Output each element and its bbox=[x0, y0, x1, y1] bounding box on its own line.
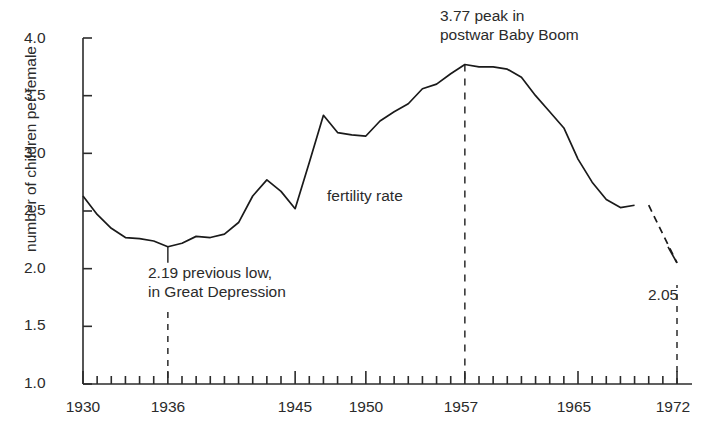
x-tick-marks bbox=[83, 371, 677, 384]
x-tick-label-1945: 1945 bbox=[267, 398, 323, 416]
x-tick-label-1950: 1950 bbox=[338, 398, 394, 416]
y-tick-label-1-5: 1.5 bbox=[24, 316, 46, 334]
x-tick-label-1957: 1957 bbox=[433, 398, 489, 416]
y-tick-marks bbox=[83, 38, 92, 384]
series-label: fertility rate bbox=[327, 186, 403, 205]
y-tick-label-2-0: 2.0 bbox=[24, 259, 46, 277]
peak-annotation-line1: 3.77 peak in bbox=[440, 7, 524, 24]
x-tick-label-1930: 1930 bbox=[55, 398, 111, 416]
y-tick-label-1-0: 1.0 bbox=[24, 374, 46, 392]
x-tick-label-1972: 1972 bbox=[645, 398, 701, 416]
y-tick-label-3-0: 3.0 bbox=[24, 144, 46, 162]
end-value-arrow-icon bbox=[668, 247, 677, 263]
y-tick-label-4-0: 4.0 bbox=[24, 29, 46, 47]
end-value-label: 2.05 bbox=[648, 285, 678, 304]
plot-canvas bbox=[0, 0, 706, 440]
fertility-rate-line bbox=[83, 65, 635, 247]
peak-annotation-line2: postwar Baby Boom bbox=[440, 26, 579, 43]
low-annotation: 2.19 previous low,in Great Depression bbox=[148, 263, 286, 301]
axes-group bbox=[83, 38, 692, 384]
leader-lines-group bbox=[168, 65, 677, 384]
fertility-rate-chart: number of children per female 4.0 3.5 3.… bbox=[0, 0, 706, 440]
y-tick-label-3-5: 3.5 bbox=[24, 86, 46, 104]
low-annotation-line1: 2.19 previous low, bbox=[148, 264, 272, 281]
peak-annotation: 3.77 peak inpostwar Baby Boom bbox=[440, 6, 579, 44]
y-tick-label-2-5: 2.5 bbox=[24, 201, 46, 219]
x-tick-label-1965: 1965 bbox=[546, 398, 602, 416]
low-annotation-line2: in Great Depression bbox=[148, 283, 286, 300]
x-tick-label-1936: 1936 bbox=[140, 398, 196, 416]
